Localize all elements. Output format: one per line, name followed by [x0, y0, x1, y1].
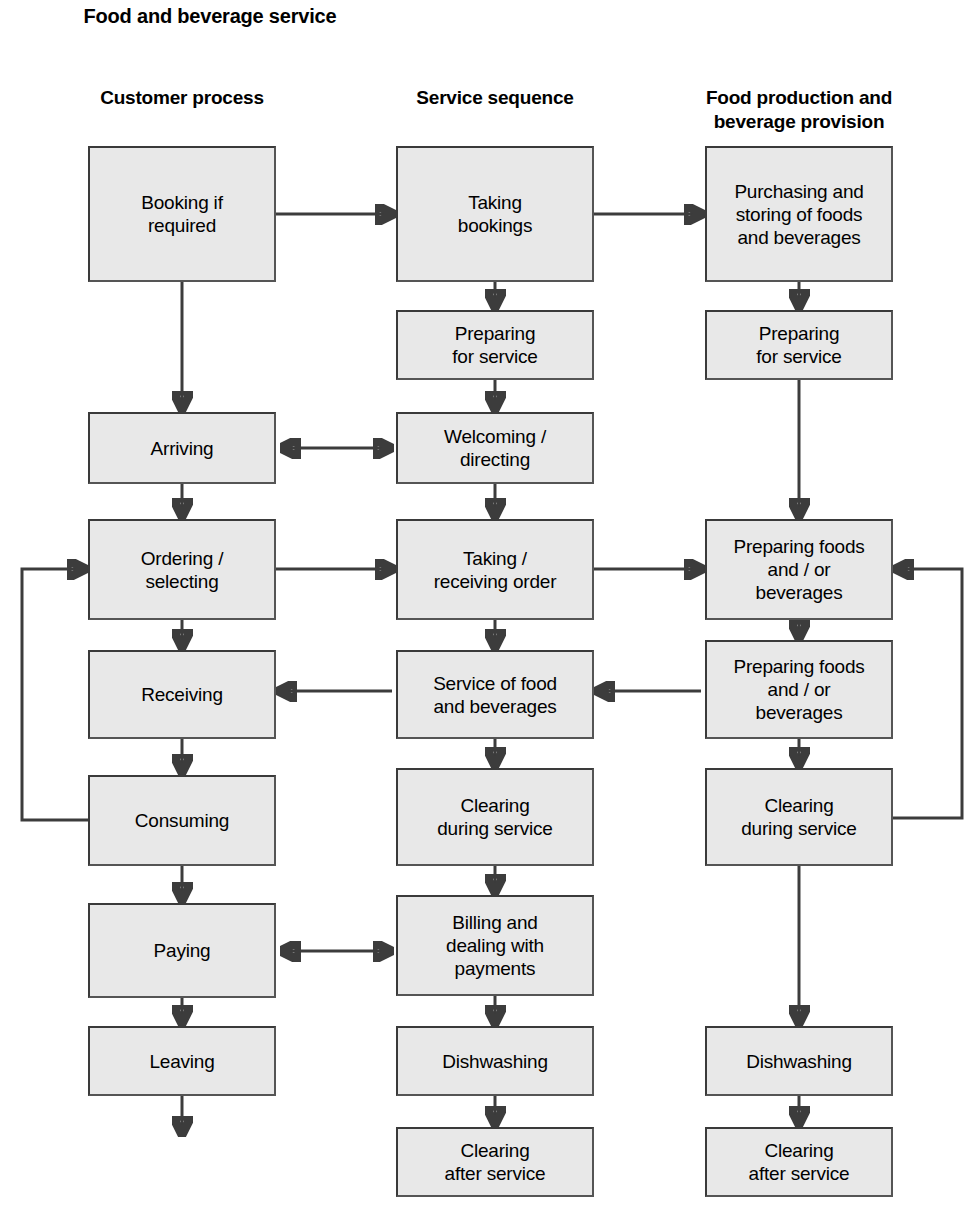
column-header-service-sequence: Service sequence [396, 86, 594, 110]
node-clearing-after-service-service-sequence[interactable]: Clearing after service [396, 1127, 594, 1197]
node-service-of-food-and-beverages[interactable]: Service of food and beverages [396, 650, 594, 739]
node-welcoming-directing[interactable]: Welcoming / directing [396, 412, 594, 484]
node-clearing-during-service-service-sequence[interactable]: Clearing during service [396, 768, 594, 866]
flowchart-diagram: Food and beverage service Customer proce… [0, 0, 979, 1212]
node-dishwashing-food-production[interactable]: Dishwashing [705, 1026, 893, 1096]
connector-clearing-r-loop-to-preparing-foods [893, 569, 962, 818]
column-header-food-production: Food production and beverage provision [675, 86, 923, 134]
node-preparing-for-service-service-sequence[interactable]: Preparing for service [396, 310, 594, 380]
node-paying[interactable]: Paying [88, 903, 276, 998]
node-clearing-after-service-food-production[interactable]: Clearing after service [705, 1127, 893, 1197]
connector-consuming-loop-to-ordering [22, 569, 88, 820]
node-booking-if-required[interactable]: Booking if required [88, 146, 276, 282]
node-taking-receiving-order[interactable]: Taking / receiving order [396, 519, 594, 620]
node-arriving[interactable]: Arriving [88, 412, 276, 484]
node-dishwashing-service-sequence[interactable]: Dishwashing [396, 1026, 594, 1096]
node-receiving[interactable]: Receiving [88, 650, 276, 739]
node-preparing-for-service-food-production[interactable]: Preparing for service [705, 310, 893, 380]
node-billing-and-dealing-with-payments[interactable]: Billing and dealing with payments [396, 895, 594, 996]
node-clearing-during-service-food-production[interactable]: Clearing during service [705, 768, 893, 866]
diagram-title: Food and beverage service [60, 4, 360, 29]
node-consuming[interactable]: Consuming [88, 775, 276, 866]
node-leaving[interactable]: Leaving [88, 1026, 276, 1096]
node-preparing-foods-beverages-2[interactable]: Preparing foods and / or beverages [705, 640, 893, 739]
node-ordering-selecting[interactable]: Ordering / selecting [88, 519, 276, 620]
column-header-customer-process: Customer process [88, 86, 276, 110]
node-purchasing-and-storing[interactable]: Purchasing and storing of foods and beve… [705, 146, 893, 282]
node-taking-bookings[interactable]: Taking bookings [396, 146, 594, 282]
node-preparing-foods-beverages-1[interactable]: Preparing foods and / or beverages [705, 519, 893, 620]
